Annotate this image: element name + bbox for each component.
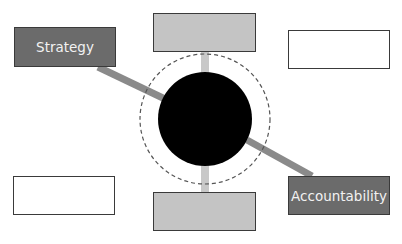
connector-strategy xyxy=(98,67,165,99)
bottom-left-box[interactable] xyxy=(13,176,115,215)
accountability-label: Accountability xyxy=(291,188,387,204)
top-right-box[interactable] xyxy=(288,30,390,69)
center-hub-circle xyxy=(158,72,252,166)
connector-accountability xyxy=(247,140,312,176)
strategy-label: Strategy xyxy=(36,39,94,55)
strategy-box[interactable]: Strategy xyxy=(14,27,116,67)
bottom-box[interactable] xyxy=(153,192,256,231)
diagram-canvas: Strategy Accountability xyxy=(0,0,402,244)
top-box[interactable] xyxy=(153,13,256,52)
accountability-box[interactable]: Accountability xyxy=(288,176,390,215)
